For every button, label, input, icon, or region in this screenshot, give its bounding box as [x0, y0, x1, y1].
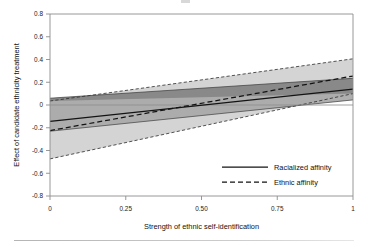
x-tick-label-3: 0.75 — [271, 205, 284, 212]
y-tick-label-4: 0 — [39, 101, 43, 108]
y-tick-label-3: 0.2 — [34, 79, 43, 86]
y-tick-label-1: 0.6 — [34, 33, 43, 40]
y-tick-label-5: -0.2 — [32, 124, 43, 131]
x-tick-label-2: 0.50 — [195, 205, 208, 212]
y-axis-ticks — [46, 14, 50, 196]
effect-of-candidate-ethnicity-chart: 0.8 0.6 0.4 0.2 0 -0.2 -0.4 -0.6 -0.8 0 … — [0, 0, 368, 249]
y-tick-label-7: -0.6 — [32, 170, 43, 177]
y-tick-label-0: 0.8 — [34, 10, 43, 17]
y-tick-label-2: 0.4 — [34, 56, 43, 63]
figure-container: 0.8 0.6 0.4 0.2 0 -0.2 -0.4 -0.6 -0.8 0 … — [0, 0, 368, 249]
x-axis-ticks — [50, 196, 353, 200]
y-tick-label-6: -0.4 — [32, 147, 43, 154]
x-tick-label-4: 1 — [351, 205, 355, 212]
legend-label-racialized-affinity: Racialized affinity — [274, 163, 332, 172]
x-tick-label-0: 0 — [48, 205, 52, 212]
x-axis-title: Strength of ethnic self-identification — [144, 222, 259, 231]
y-axis-title: Effect of candidate ethnicity treatment — [12, 43, 21, 167]
footer-divider — [14, 240, 354, 241]
x-tick-label-1: 0.25 — [120, 205, 133, 212]
legend-label-ethnic-affinity: Ethnic affinity — [274, 178, 318, 187]
y-tick-label-8: -0.8 — [32, 192, 43, 199]
